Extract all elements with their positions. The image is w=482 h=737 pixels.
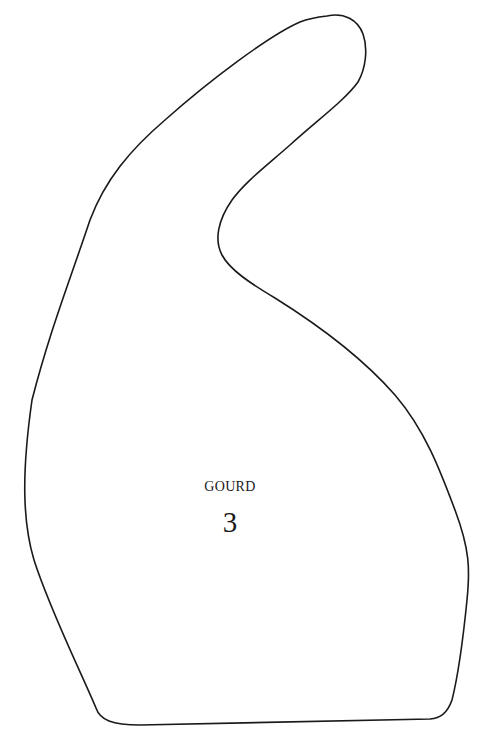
shape-name-label: GOURD <box>180 479 280 495</box>
gourd-diagram <box>0 0 482 737</box>
gourd-outline <box>25 15 469 725</box>
shape-number-label: 3 <box>180 506 280 539</box>
